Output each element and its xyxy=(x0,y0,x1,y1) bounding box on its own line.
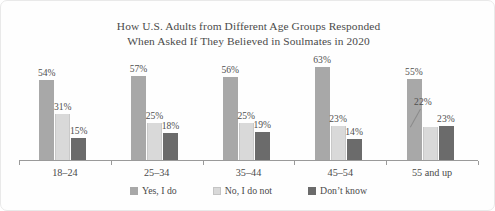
bar xyxy=(255,132,270,160)
bar xyxy=(147,123,162,160)
bar-value-label: 56% xyxy=(222,65,240,75)
bar-value-label: 25% xyxy=(146,111,164,121)
category-label: 25–34 xyxy=(111,167,203,178)
bar-value-label: 19% xyxy=(254,120,272,130)
bar xyxy=(347,139,362,160)
axis-tick xyxy=(478,161,479,165)
chart-legend: Yes, I do No, I do not Don’t know xyxy=(1,185,495,196)
bar xyxy=(331,126,346,160)
x-axis-line xyxy=(19,160,478,161)
bar-value-label: 54% xyxy=(38,68,56,78)
bar-value-label: 57% xyxy=(130,64,148,74)
bar xyxy=(315,67,330,160)
bar-value-label: 31% xyxy=(54,102,72,112)
legend-swatch-icon-yes xyxy=(130,187,138,195)
axis-tick xyxy=(294,161,295,165)
bar-value-label: 23% xyxy=(437,114,455,124)
bar-value-label: 18% xyxy=(162,121,180,131)
bar-value-label: 23% xyxy=(329,114,347,124)
bar-value-label: 25% xyxy=(238,111,256,121)
bar xyxy=(423,127,438,160)
category-label: 18–24 xyxy=(19,167,111,178)
axis-tick xyxy=(386,161,387,165)
chart-title-line-1: How U.S. Adults from Different Age Group… xyxy=(1,19,495,34)
bar xyxy=(239,123,254,160)
bar xyxy=(163,133,178,160)
bar-value-label: 55% xyxy=(405,67,423,77)
legend-swatch-icon-no xyxy=(213,187,221,195)
bar xyxy=(131,76,146,160)
legend-item-dont-know: Don’t know xyxy=(308,185,367,196)
bar xyxy=(223,77,238,160)
bar-value-label: 63% xyxy=(313,55,331,65)
category-label: 55 and up xyxy=(386,167,478,178)
bar xyxy=(439,126,454,160)
chart-figure: How U.S. Adults from Different Age Group… xyxy=(0,0,495,211)
bar xyxy=(39,80,54,160)
bar-value-label: 15% xyxy=(70,126,88,136)
chart-title: How U.S. Adults from Different Age Group… xyxy=(1,19,495,49)
legend-item-no: No, I do not xyxy=(213,185,272,196)
category-label: 45–54 xyxy=(294,167,386,178)
legend-label-no: No, I do not xyxy=(225,185,272,196)
bar xyxy=(55,114,70,160)
bar-cluster xyxy=(39,80,86,160)
legend-item-yes: Yes, I do xyxy=(130,185,177,196)
bar-value-label: 14% xyxy=(345,127,363,137)
legend-swatch-icon-dont-know xyxy=(308,187,316,195)
legend-label-yes: Yes, I do xyxy=(142,185,177,196)
bar-value-label: 22% xyxy=(414,97,432,107)
axis-tick xyxy=(111,161,112,165)
axis-tick xyxy=(19,161,20,165)
legend-label-dont-know: Don’t know xyxy=(320,185,367,196)
bar xyxy=(71,138,86,160)
axis-tick xyxy=(203,161,204,165)
chart-title-line-2: When Asked If They Believed in Soulmates… xyxy=(1,34,495,49)
category-label: 35–44 xyxy=(203,167,295,178)
